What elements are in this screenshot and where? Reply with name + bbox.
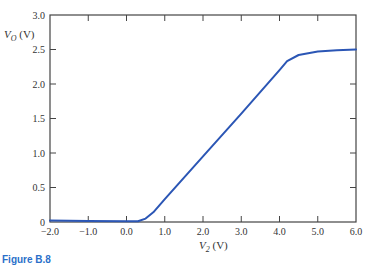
x-tick-label: 6.0 <box>350 226 363 237</box>
x-tick-label: 0.0 <box>120 226 133 237</box>
y-tick-label: 3.0 <box>33 10 46 21</box>
x-tick-label: −2.0 <box>41 226 59 237</box>
figure-caption: Figure B.8 <box>2 254 51 265</box>
y-axis-label: VO (V) <box>4 28 35 43</box>
plot-frame <box>50 15 356 222</box>
x-tick-label: 2.0 <box>197 226 210 237</box>
x-tick-label: 4.0 <box>273 226 286 237</box>
x-tick-label: 3.0 <box>235 226 248 237</box>
y-tick-label: 1.5 <box>33 113 46 124</box>
y-tick-label: 2.5 <box>33 44 46 55</box>
x-tick-label: 1.0 <box>159 226 172 237</box>
x-axis-label: V2 (V) <box>199 239 228 254</box>
x-tick-label: 5.0 <box>312 226 325 237</box>
y-tick-label: 2.0 <box>33 79 46 90</box>
y-tick-label: 1.0 <box>33 148 46 159</box>
x-tick-label: −1.0 <box>79 226 97 237</box>
y-tick-label: 0 <box>40 217 45 228</box>
series-line-vo <box>50 50 356 222</box>
y-tick-label: 0.5 <box>33 182 46 193</box>
